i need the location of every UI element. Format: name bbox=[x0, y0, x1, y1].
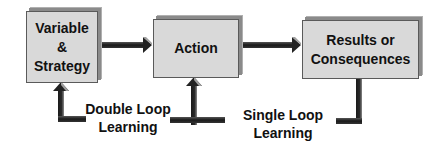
label-double-loop-learning: Double Loop Learning bbox=[84, 100, 172, 136]
node-text-line: Action bbox=[174, 39, 218, 58]
label-line: Single Loop bbox=[240, 106, 326, 124]
node-variable-strategy: Variable & Strategy bbox=[26, 11, 98, 83]
node-text-line: Consequences bbox=[311, 50, 411, 69]
label-line: Learning bbox=[84, 118, 172, 136]
label-line: Learning bbox=[240, 124, 326, 142]
arrow-action-to-results bbox=[238, 37, 301, 53]
node-text-line: Results or bbox=[311, 31, 411, 50]
double-loop-connector bbox=[53, 82, 86, 122]
node-text-line: Variable bbox=[34, 19, 90, 38]
label-line: Double Loop bbox=[84, 100, 172, 118]
single-loop-connector bbox=[170, 77, 225, 125]
node-text-line: & bbox=[34, 38, 90, 57]
label-single-loop-learning: Single Loop Learning bbox=[240, 106, 326, 142]
arrow-strategy-to-action bbox=[98, 37, 152, 53]
learning-loop-diagram: Variable & Strategy Action Results or Co… bbox=[0, 0, 438, 148]
node-action: Action bbox=[153, 19, 239, 78]
node-results-consequences: Results or Consequences bbox=[302, 20, 419, 79]
node-text-line: Strategy bbox=[34, 57, 90, 76]
results-feedback-connector bbox=[336, 78, 362, 124]
